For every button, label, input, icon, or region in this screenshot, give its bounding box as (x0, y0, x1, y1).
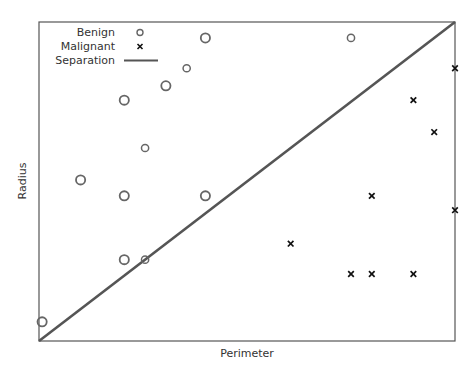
scatter-chart: Benign Malignant Separation Perimeter Ra… (0, 0, 474, 375)
legend-label-separation: Separation (55, 54, 115, 67)
legend-label-malignant: Malignant (61, 40, 116, 53)
y-axis-label: Radius (16, 162, 29, 199)
legend-label-benign: Benign (77, 26, 115, 39)
x-axis-label: Perimeter (220, 347, 274, 360)
